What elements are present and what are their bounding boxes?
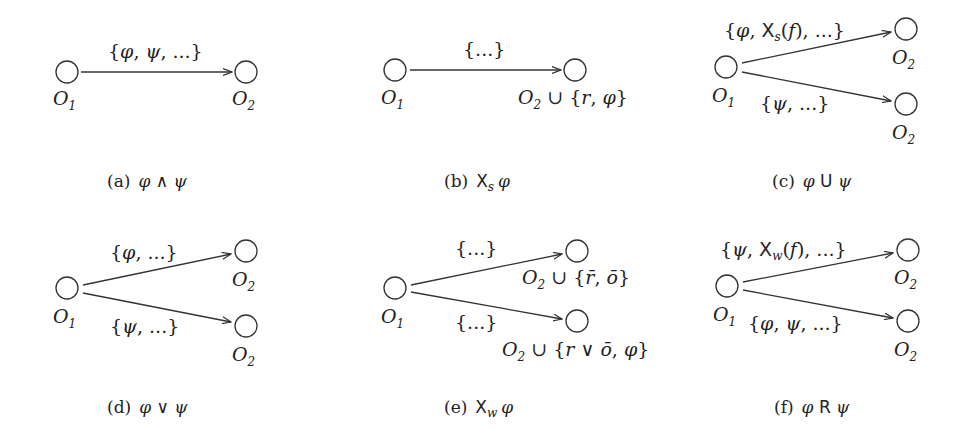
caption-d: (d)φ ∨ ψ	[107, 397, 188, 417]
panel-a: {φ, ψ, ...} O1 O2 (a)φ ∧ ψ	[53, 40, 257, 191]
node-o2-bottom	[897, 310, 919, 332]
node-o1	[715, 56, 737, 78]
panel-b: {...} O1 O2 ∪ {r, φ} (b)Xsφ	[381, 38, 628, 194]
node-o2-bottom-label: O2	[232, 343, 255, 369]
panel-e: {...} {...} O1 O2 ∪ {r̄, ō} O2 ∪ {r ∨ ō,…	[381, 237, 649, 420]
edge-label: {φ, ψ, ...}	[108, 40, 203, 62]
edge-label: {...}	[463, 38, 505, 60]
node-o2-top	[897, 239, 919, 261]
node-o2	[564, 59, 586, 81]
node-o2-top	[566, 240, 588, 262]
node-o2-bottom	[895, 93, 917, 115]
node-o2-top	[895, 18, 917, 40]
caption-c: (c)φ U ψ	[772, 171, 852, 191]
node-o1-label: O1	[53, 305, 76, 331]
node-o2-top-label: O2	[232, 268, 255, 294]
node-o2-label: O2 ∪ {r, φ}	[518, 86, 628, 112]
edge-label-top: {φ, Xs(f), ...}	[724, 19, 845, 44]
caption-b: (b)Xsφ	[444, 171, 510, 194]
node-o1	[56, 277, 78, 299]
panel-d: {φ, ...} {ψ, ...} O1 O2 O2 (d)φ ∨ ψ	[53, 240, 257, 417]
node-o2-top-label: O2	[892, 46, 915, 72]
caption-a: (a)φ ∧ ψ	[107, 171, 188, 191]
node-o1-label: O1	[712, 84, 735, 110]
node-o2	[235, 61, 257, 83]
edge-label-top: {φ, ...}	[110, 241, 178, 263]
caption-f: (f)φ R ψ	[774, 397, 850, 417]
edge-label-bottom: {ψ, ...}	[110, 315, 179, 337]
edge-label-top: {ψ, Xw(f), ...}	[720, 238, 847, 263]
node-o1-label: O1	[53, 87, 76, 113]
node-o2-top-label: O2 ∪ {r̄, ō}	[522, 266, 630, 292]
node-o1	[384, 277, 406, 299]
node-o1-label: O1	[713, 303, 736, 329]
panel-f: {ψ, Xw(f), ...} {φ, ψ, ...} O1 O2 O2 (f)…	[713, 238, 919, 417]
edge-label-top: {...}	[455, 237, 497, 259]
edge-label-bottom: {ψ, ...}	[760, 92, 829, 114]
panel-c: {φ, Xs(f), ...} {ψ, ...} O1 O2 O2 (c)φ U…	[712, 18, 917, 191]
node-o1	[716, 275, 738, 297]
node-o2-bottom	[235, 315, 257, 337]
node-o2-bottom-label: O2	[892, 121, 915, 147]
edge-label-bottom: {...}	[455, 311, 497, 333]
node-o1	[56, 61, 78, 83]
node-o2-label: O2	[232, 87, 255, 113]
node-o1-label: O1	[381, 305, 404, 331]
node-o2-top	[235, 240, 257, 262]
edge-label-bottom: {φ, ψ, ...}	[748, 312, 843, 334]
node-o2-bottom-label: O2 ∪ {r ∨ ō, φ}	[502, 338, 649, 364]
node-o2-top-label: O2	[894, 266, 917, 292]
node-o2-bottom-label: O2	[894, 338, 917, 364]
node-o2-bottom	[566, 310, 588, 332]
node-o1	[384, 59, 406, 81]
node-o1-label: O1	[381, 86, 404, 112]
caption-e: (e)Xwφ	[444, 397, 513, 420]
